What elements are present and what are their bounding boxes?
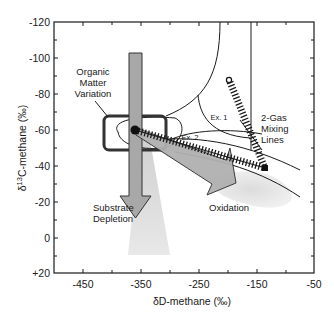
x-tick-label: -50 [306, 278, 321, 290]
annotation-organic-matter: Organic Matter Variation [75, 66, 112, 99]
annotation-mixing-lines: 2-Gas Mixing Lines [261, 112, 288, 145]
organic-line-1: Organic [76, 66, 110, 77]
y-tick-label: +20 [32, 267, 50, 279]
y-tick-label: 0 [44, 232, 50, 244]
substrate-line-2: Depletion [93, 213, 133, 224]
y-axis-rest: C-methane (‰) [16, 105, 28, 177]
chart-canvas: -120 -100 -80 -60 -40 -20 0 +20 -450 -35… [0, 0, 334, 320]
y-tick-labels: -120 -100 -80 -60 -40 -20 0 +20 [29, 16, 50, 279]
open-circle-marker [226, 77, 231, 82]
start-point-marker [131, 126, 140, 135]
y-tick-label: -80 [35, 88, 50, 100]
mixing-line-ex1 [230, 82, 264, 166]
organic-line-2: Matter [80, 77, 107, 88]
y-axis-sup: 13 [15, 177, 24, 185]
mixing-line-2: Mixing [261, 123, 288, 134]
thermogenic-field-curve [166, 22, 220, 116]
y-tick-label: -100 [29, 52, 50, 64]
annotation-substrate: Substrate Depletion [93, 202, 134, 224]
svg-text:δ13C-methane (‰): δ13C-methane (‰) [15, 105, 28, 192]
x-tick-label: -350 [130, 278, 151, 290]
y-tick-label: -60 [35, 124, 50, 136]
organic-line-3: Variation [75, 88, 112, 99]
y-tick-label: -40 [35, 160, 50, 172]
ex1-label: Ex. 1 [210, 113, 227, 122]
substrate-line-1: Substrate [93, 202, 134, 213]
y-axis-title: δ13C-methane (‰) [15, 105, 28, 192]
y-tick-label: -20 [35, 196, 50, 208]
organic-leader-line [95, 101, 108, 117]
x-tick-labels: -450 -350 -250 -150 -50 [72, 278, 321, 290]
y-tick-label: -120 [29, 16, 50, 28]
x-axis-title: δD-methane (‰) [153, 295, 231, 307]
x-tick-label: -150 [246, 278, 267, 290]
oxidation-label: Oxidation [209, 202, 249, 213]
x-tick-label: -450 [72, 278, 93, 290]
x-tick-label: -250 [188, 278, 209, 290]
mixing-line-3: Lines [261, 134, 284, 145]
mixing-line-1: 2-Gas [261, 112, 287, 123]
filled-square-marker [262, 165, 268, 171]
ex2-label: Ex. 2 [181, 133, 198, 142]
